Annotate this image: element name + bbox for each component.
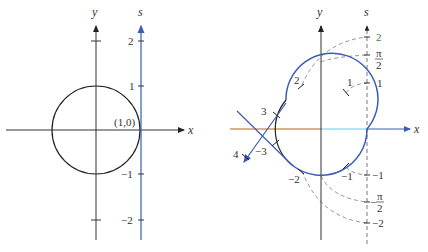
right-circle-blue	[286, 53, 378, 129]
circle-label-2: 2	[294, 74, 300, 86]
tangent-blue-cross	[237, 111, 293, 166]
circle-label-neg1: −1	[341, 170, 353, 182]
right-circle-blue-lower	[292, 129, 367, 175]
s-label-2: 2	[376, 31, 382, 43]
left-s-label-neg2: −2	[121, 214, 133, 226]
right-panel: y s x 2 π 2 1 −1 − π 2 −2 1 2 3 4 −1 −2 …	[230, 5, 420, 244]
dashed-arc-neg2	[302, 171, 367, 223]
right-y-axis-label: y	[316, 5, 323, 19]
circle-label-3: 3	[261, 105, 267, 117]
left-s-label-neg1: −1	[121, 168, 133, 180]
left-s-label-2: 2	[128, 35, 134, 47]
left-s-axis-label: s	[138, 5, 143, 19]
wrapping-function-diagram: y s x (1,0) 2 1 −1 −2	[0, 0, 428, 252]
s-label-1: 1	[377, 77, 383, 89]
s-label-pi-den: 2	[376, 59, 382, 71]
s-label-neg2: −2	[372, 217, 384, 229]
right-circle-black	[275, 100, 292, 165]
right-x-axis-label: x	[413, 122, 420, 136]
circle-label-neg3: −3	[255, 145, 267, 157]
left-panel: y s x (1,0) 2 1 −1 −2	[6, 5, 194, 240]
left-y-axis-label: y	[91, 5, 98, 19]
dashed-arc-pi-half	[321, 55, 367, 62]
right-s-axis-label: s	[364, 5, 369, 19]
s-label-pi-num: π	[376, 47, 382, 59]
circle-label-neg2: −2	[288, 173, 300, 185]
s-label-neg-pi-num: π	[377, 190, 383, 202]
s-label-neg1: −1	[372, 169, 384, 181]
left-point-label: (1,0)	[114, 116, 135, 129]
circle-label-1: 1	[347, 76, 353, 88]
s-label-neg-pi-den: 2	[377, 202, 383, 214]
left-s-label-1: 1	[129, 80, 135, 92]
circle-label-4: 4	[233, 148, 239, 160]
s-label-neg-pi-sign: −	[370, 196, 376, 208]
left-x-axis-label: x	[187, 123, 194, 137]
